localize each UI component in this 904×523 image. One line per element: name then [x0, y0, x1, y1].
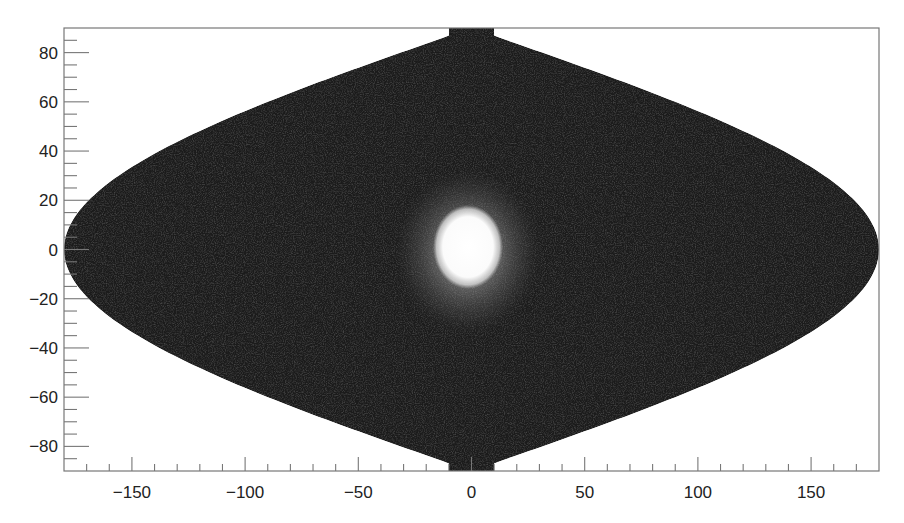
x-tick-label: −50: [344, 483, 373, 502]
y-tick-label: 40: [39, 142, 58, 161]
bright-source: [433, 205, 503, 289]
x-tick-label: 50: [575, 483, 594, 502]
x-tick-label: −150: [113, 483, 151, 502]
x-tick-label: −100: [226, 483, 264, 502]
y-tick-label: −80: [29, 437, 58, 456]
y-tick-label: 60: [39, 93, 58, 112]
map-region: [64, 28, 879, 471]
y-tick-label: −20: [29, 290, 58, 309]
x-tick-label: 150: [797, 483, 825, 502]
y-tick-label: 20: [39, 191, 58, 210]
y-axis-ticks: [64, 40, 89, 458]
x-axis-ticks: [87, 457, 857, 471]
x-tick-label: 100: [684, 483, 712, 502]
x-axis-labels: −150−100−50050100150: [113, 483, 826, 502]
y-tick-label: −40: [29, 339, 58, 358]
x-tick-label: 0: [467, 483, 476, 502]
y-tick-label: 0: [49, 241, 58, 260]
y-axis-labels: 806040200−20−40−60−80: [29, 44, 58, 457]
y-tick-label: 80: [39, 44, 58, 63]
y-tick-label: −60: [29, 388, 58, 407]
sky-map-chart: −150−100−50050100150 806040200−20−40−60−…: [0, 0, 904, 523]
